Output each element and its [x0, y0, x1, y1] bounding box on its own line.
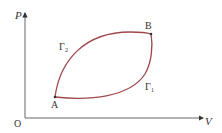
gamma-2-label: Γ₂: [59, 41, 68, 52]
x-axis-label: V: [205, 115, 213, 127]
point-b-label: B: [145, 20, 152, 31]
origin-label: O: [14, 118, 21, 129]
curve-gamma-1: [55, 34, 152, 98]
curve-gamma-2: [55, 32, 151, 97]
pv-diagram: P V O A B Γ₂ Γ₁: [0, 0, 222, 133]
point-a-label: A: [51, 99, 59, 110]
gamma-1-label: Γ₁: [145, 81, 154, 92]
point-b: [150, 33, 153, 36]
point-a: [54, 96, 57, 99]
y-axis-label: P: [14, 9, 22, 21]
